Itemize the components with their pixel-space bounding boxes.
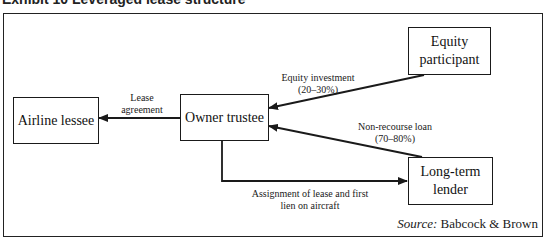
node-equity-participant-line1: Equity (431, 33, 468, 51)
node-long-term-lender-line2: lender (433, 181, 468, 199)
node-owner-trustee: Owner trustee (180, 94, 269, 141)
edge-label-equity-investment: Equity investment (20–30%) (278, 72, 358, 96)
node-owner-trustee-label: Owner trustee (185, 109, 264, 127)
node-equity-participant: Equity participant (408, 27, 491, 75)
source-note: Source: Babcock & Brown (397, 216, 538, 232)
edge-label-assignment: Assignment of lease and first lien on ai… (250, 188, 370, 212)
node-equity-participant-line2: participant (420, 51, 480, 69)
edge-label-lease-agreement: Lease agreement (118, 92, 166, 116)
arrow-assignment (222, 141, 407, 181)
source-name: Babcock & Brown (441, 216, 538, 231)
source-prefix: Source: (397, 216, 437, 231)
node-long-term-lender-line1: Long-term (421, 163, 481, 181)
node-airline-lessee-label: Airline lessee (18, 112, 95, 130)
node-long-term-lender: Long-term lender (408, 157, 493, 205)
node-airline-lessee: Airline lessee (13, 97, 99, 144)
edge-label-non-recourse-loan: Non-recourse loan (70–80%) (355, 121, 435, 145)
